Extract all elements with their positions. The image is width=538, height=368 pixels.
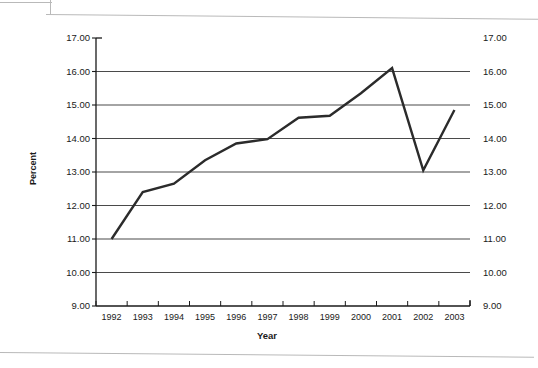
x-axis-tick-label: 1998	[289, 312, 309, 322]
x-axis-tick-label: 2002	[413, 312, 433, 322]
x-axis-ticks	[96, 301, 470, 306]
x-axis-tick-label: 1992	[102, 312, 122, 322]
y-axis-right-tick-labels: 17.0016.0015.0014.0013.0012.0011.0010.00…	[483, 32, 507, 311]
y-axis-left-tick-label: 17.00	[66, 32, 90, 43]
y-axis-left-tick-label: 16.00	[66, 66, 90, 77]
y-axis-left-tick-label: 11.00	[67, 233, 90, 244]
x-axis-tick-label: 2003	[444, 312, 464, 322]
x-axis-tick-label: 2000	[351, 312, 371, 322]
y-axis-right-tick-label: 17.00	[483, 32, 507, 43]
x-axis-tick-label: 1996	[226, 312, 246, 322]
scan-artifact-tick	[50, 0, 51, 14]
y-axis-left-tick-label: 15.00	[66, 99, 90, 110]
x-axis-tick-label: 2001	[382, 312, 402, 322]
data-series-line	[112, 68, 455, 239]
y-axis-title: Percent	[28, 152, 38, 185]
y-axis-left-tick-label: 14.00	[66, 133, 90, 144]
y-axis-right-tick-label: 15.00	[483, 99, 507, 110]
y-axis-right-tick-label: 16.00	[483, 66, 507, 77]
y-axis-left-tick-label: 10.00	[66, 267, 90, 278]
x-axis-tick-label: 1997	[257, 312, 277, 322]
y-axis-right-tick-label: 9.00	[483, 300, 502, 311]
y-axis-left-tick-label: 13.00	[66, 166, 90, 177]
y-axis-left-tick-label: 12.00	[66, 200, 90, 211]
y-axis-right-tick-label: 12.00	[483, 200, 507, 211]
x-axis-tick-labels: 1992199319941995199619971998199920002001…	[102, 312, 465, 322]
y-axis-right-tick-label: 13.00	[483, 166, 507, 177]
y-axis-left-tick-labels: 17.0016.0015.0014.0013.0012.0011.0010.00…	[66, 32, 96, 311]
y-axis-right-tick-label: 10.00	[483, 267, 507, 278]
x-axis-tick-label: 1999	[320, 312, 340, 322]
y-axis-right-tick-label: 11.00	[483, 233, 506, 244]
scan-artifact-line-top-left	[0, 2, 52, 3]
x-axis-tick-label: 1994	[164, 312, 184, 322]
y-axis-left-tick-label: 9.00	[72, 300, 91, 311]
y-axis-right-tick-label: 14.00	[483, 133, 507, 144]
x-axis-title: Year	[0, 330, 534, 341]
x-axis-tick-label: 1993	[133, 312, 153, 322]
x-axis-tick-label: 1995	[195, 312, 215, 322]
